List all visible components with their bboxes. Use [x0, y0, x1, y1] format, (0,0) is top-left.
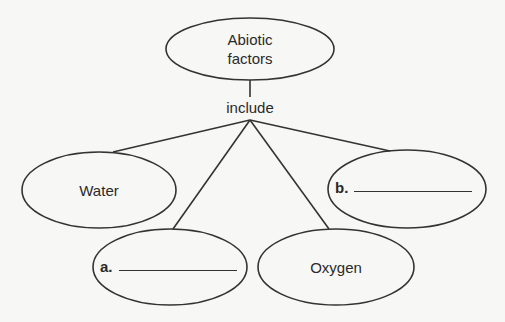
branch-water	[113, 120, 250, 152]
connector-label: include	[200, 98, 300, 117]
a-blank[interactable]: a.	[100, 258, 237, 275]
root-label: Abiotic factors	[190, 30, 310, 68]
branch-b	[250, 120, 390, 151]
b-answer-line[interactable]	[354, 191, 472, 192]
oxygen-label: Oxygen	[286, 258, 386, 277]
water-label: Water	[49, 181, 149, 200]
branch-oxygen	[250, 120, 329, 229]
branch-a	[173, 120, 250, 229]
b-blank[interactable]: b.	[335, 179, 472, 196]
a-answer-line[interactable]	[119, 270, 237, 271]
